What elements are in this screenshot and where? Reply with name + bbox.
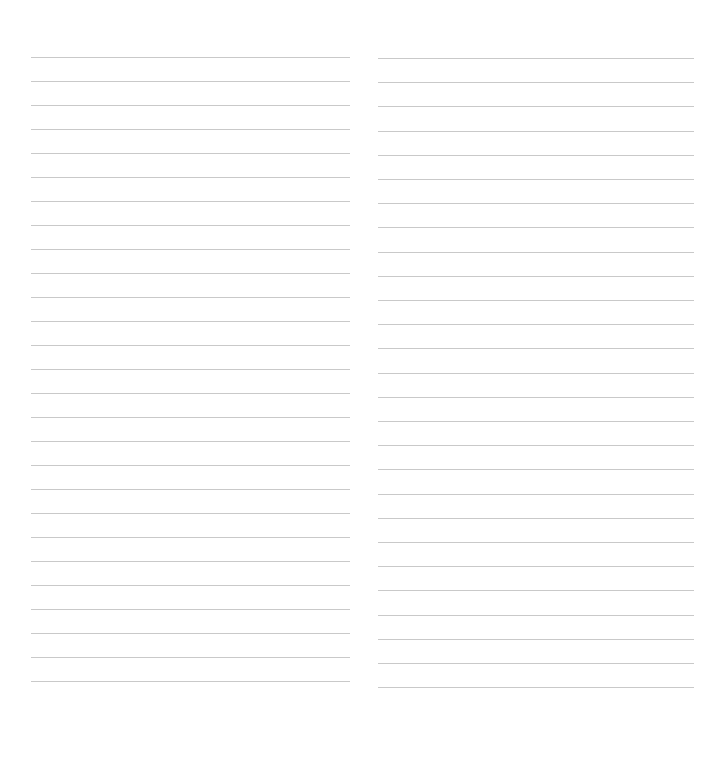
ruled-line: [378, 276, 694, 277]
ruled-line: [31, 177, 350, 178]
ruled-line: [378, 300, 694, 301]
ruled-line: [31, 321, 350, 322]
ruled-line: [378, 324, 694, 325]
ruled-line: [31, 81, 350, 82]
ruled-line: [378, 179, 694, 180]
ruled-line: [31, 681, 350, 682]
ruled-line: [31, 537, 350, 538]
ruled-line: [31, 345, 350, 346]
ruled-line: [378, 615, 694, 616]
ruled-line: [31, 465, 350, 466]
ruled-line: [378, 639, 694, 640]
ruled-line: [378, 518, 694, 519]
ruled-line: [31, 273, 350, 274]
ruled-line: [31, 225, 350, 226]
ruled-line: [31, 153, 350, 154]
ruled-line: [378, 566, 694, 567]
ruled-line: [378, 58, 694, 59]
ruled-line: [31, 249, 350, 250]
ruled-line: [378, 542, 694, 543]
ruled-line: [378, 373, 694, 374]
ruled-line: [31, 393, 350, 394]
ruled-line: [378, 252, 694, 253]
ruled-line: [31, 609, 350, 610]
ruled-line: [31, 297, 350, 298]
ruled-line: [31, 417, 350, 418]
ruled-line: [378, 155, 694, 156]
ruled-line: [31, 561, 350, 562]
ruled-line: [378, 663, 694, 664]
ruled-line: [378, 494, 694, 495]
ruled-line: [378, 421, 694, 422]
ruled-line: [378, 82, 694, 83]
ruled-line: [378, 348, 694, 349]
ruled-line: [31, 633, 350, 634]
ruled-line: [31, 585, 350, 586]
ruled-line: [31, 129, 350, 130]
ruled-line: [31, 201, 350, 202]
ruled-line: [378, 469, 694, 470]
ruled-line: [31, 657, 350, 658]
ruled-line: [378, 590, 694, 591]
ruled-line: [31, 57, 350, 58]
ruled-line: [378, 397, 694, 398]
ruled-line: [31, 369, 350, 370]
ruled-line: [378, 203, 694, 204]
ruled-line: [31, 441, 350, 442]
ruled-line: [378, 227, 694, 228]
ruled-line: [378, 106, 694, 107]
ruled-line: [378, 131, 694, 132]
ruled-line: [31, 513, 350, 514]
ruled-line: [31, 105, 350, 106]
ruled-line: [378, 687, 694, 688]
ruled-line: [378, 445, 694, 446]
ruled-line: [31, 489, 350, 490]
